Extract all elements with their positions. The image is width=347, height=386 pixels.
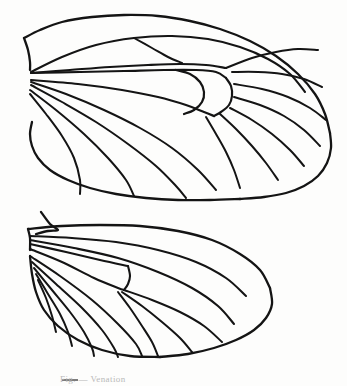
illustration-background xyxy=(0,0,347,386)
figure-page: Fig. — Venation xyxy=(0,0,347,386)
figure-caption: Fig. — Venation xyxy=(0,374,347,386)
wing-venation-illustration xyxy=(0,0,347,386)
caption-text: Fig. — Venation xyxy=(60,374,126,385)
